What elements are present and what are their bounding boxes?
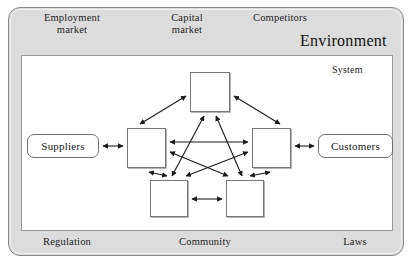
node-top[interactable] (190, 72, 230, 112)
node-bottom-left[interactable] (150, 180, 188, 217)
label-system: System (332, 64, 384, 75)
suppliers-label: Suppliers (41, 140, 84, 152)
diagram-canvas: Employment market Capital market Competi… (0, 0, 414, 268)
customers-box[interactable]: Customers (318, 134, 393, 158)
label-regulation: Regulation (24, 236, 110, 248)
label-community: Community (160, 236, 250, 248)
label-employment-market: Employment market (24, 12, 120, 35)
node-left[interactable] (127, 128, 166, 168)
node-bottom-right[interactable] (226, 180, 264, 217)
label-competitors: Competitors (234, 12, 326, 24)
label-capital-market: Capital market (152, 12, 222, 35)
customers-label: Customers (331, 140, 380, 152)
label-environment-title: Environment (300, 32, 396, 49)
suppliers-box[interactable]: Suppliers (27, 134, 99, 158)
node-right[interactable] (252, 128, 291, 168)
label-laws: Laws (330, 236, 380, 248)
